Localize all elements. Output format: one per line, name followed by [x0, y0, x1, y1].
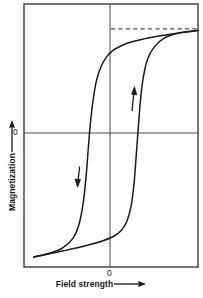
x-axis-title: Field strength	[0, 279, 203, 289]
hysteresis-loop-figure: 0 0 Field strength Magnetization	[0, 0, 203, 298]
plot-area	[0, 0, 203, 298]
x-axis-arrow-icon	[113, 279, 147, 289]
x-axis-zero-label: 0	[107, 268, 112, 278]
y-axis-title: Magnetization	[7, 95, 17, 235]
x-axis-title-text: Field strength	[56, 279, 114, 289]
plot-background	[24, 4, 198, 267]
y-axis-arrow-icon	[7, 119, 17, 153]
y-axis-title-text: Magnetization	[7, 153, 17, 211]
